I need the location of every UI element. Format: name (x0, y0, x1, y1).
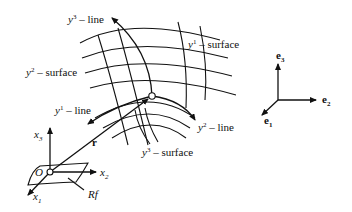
label-e1: e1 (264, 114, 273, 129)
y2-line-arrow (152, 96, 195, 120)
label-y2-line: y2 – line (197, 121, 234, 133)
rf-pointer (68, 178, 84, 190)
e1-vector (262, 100, 278, 115)
label-y3-surface: y3 – surface (141, 146, 193, 158)
origin-marker (47, 169, 53, 175)
label-origin: O (35, 166, 43, 178)
curvilinear-coordinates-diagram: y3 – line y1 – surface y2 – surface y1 –… (0, 0, 352, 212)
label-x1: x1 (32, 190, 41, 205)
label-y3-line: y3 – line (67, 13, 104, 25)
label-y1-surface: y1 – surface (187, 38, 239, 50)
label-e3: e3 (276, 49, 285, 64)
label-r: r (92, 136, 97, 148)
label-x2: x2 (99, 166, 109, 181)
label-y2-surface: y2 – surface (25, 66, 77, 78)
point-marker (149, 93, 155, 99)
label-e2: e2 (322, 93, 331, 108)
label-x3: x3 (33, 128, 43, 143)
label-y1-line: y1 – line (54, 104, 91, 116)
label-rf: Rf (87, 188, 100, 200)
